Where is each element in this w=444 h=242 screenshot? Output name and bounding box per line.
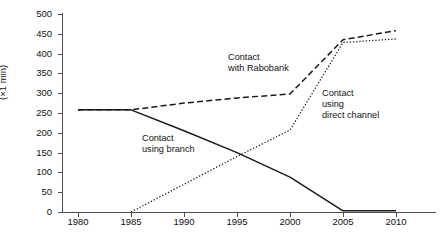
series-line-contact-using-branch <box>78 110 396 211</box>
annotation-contact-using-direct-channel: Contact using direct channel <box>322 88 379 122</box>
annotation-contact-with-rabobank: Contact with Rabobank <box>228 52 289 74</box>
annotation-contact-using-branch: Contact using branch <box>142 133 195 155</box>
line-chart: (×1 min) 050100150200250300350400450500 … <box>0 0 444 242</box>
plot-area: (×1 min) 050100150200250300350400450500 … <box>0 0 444 242</box>
